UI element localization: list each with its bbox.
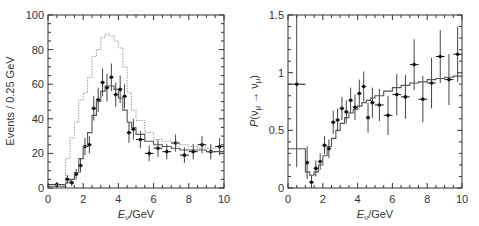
x-tick-label: 8 <box>424 193 430 205</box>
x-tick-label: 0 <box>45 193 51 205</box>
data-point <box>215 138 224 155</box>
x-tick-label: 6 <box>151 193 157 205</box>
y-tick-label: 20 <box>32 147 44 159</box>
y-tick-label: 1.5 <box>269 9 284 21</box>
probability-plot-content <box>288 15 462 188</box>
events-y-axis-label: Events / 0.25 GeV <box>4 56 16 146</box>
probability-x-axis-label: Eν/GeV <box>357 208 394 222</box>
x-tick-label: 4 <box>115 193 121 205</box>
y-tick-label: 0 <box>278 182 284 194</box>
data-point <box>348 88 352 113</box>
data-point <box>375 89 384 121</box>
data-point <box>410 39 419 90</box>
data-point <box>127 122 131 143</box>
best-fit-histogram <box>48 86 224 186</box>
survival-probability-panel: 024681000.511.5 P(νμ → νμ) Eν/GeV <box>248 9 468 222</box>
y-tick-label: 0 <box>38 182 44 194</box>
data-point <box>198 136 207 153</box>
x-tick-label: 10 <box>456 193 468 205</box>
events-axis-ticks <box>48 15 224 188</box>
data-point <box>366 103 370 133</box>
data-point <box>436 30 445 83</box>
y-tick-label: 60 <box>32 78 44 90</box>
data-point <box>322 136 326 154</box>
x-tick-label: 10 <box>218 193 230 205</box>
events-histogram-panel: 0246810020406080100 Events / 0.25 GeV Eν… <box>4 9 230 222</box>
x-tick-label: 8 <box>186 193 192 205</box>
y-tick-label: 0.5 <box>269 124 284 136</box>
data-point <box>392 74 401 116</box>
events-plot-frame <box>48 15 224 188</box>
data-point <box>401 75 410 119</box>
data-point <box>419 76 428 122</box>
events-tick-labels: 0246810020406080100 <box>26 9 230 205</box>
data-point <box>331 111 335 134</box>
data-point <box>370 88 374 118</box>
data-point <box>453 27 462 82</box>
data-point <box>445 54 454 105</box>
data-point <box>136 131 145 148</box>
events-plot-content <box>48 34 224 187</box>
figure: 0246810020406080100 Events / 0.25 GeV Eν… <box>0 0 479 226</box>
probability-y-axis-label: P(νμ → νμ) <box>248 75 262 127</box>
x-tick-label: 2 <box>320 193 326 205</box>
data-point <box>335 108 339 131</box>
x-tick-label: 0 <box>285 193 291 205</box>
data-point <box>353 95 357 120</box>
data-point <box>357 80 361 108</box>
figure-canvas: 0246810020406080100 Events / 0.25 GeV Eν… <box>0 0 479 226</box>
y-tick-label: 100 <box>26 9 44 21</box>
y-tick-label: 1 <box>278 67 284 79</box>
y-tick-label: 80 <box>32 44 44 56</box>
data-point <box>427 58 436 109</box>
data-point <box>362 72 366 102</box>
data-point <box>154 140 163 157</box>
data-point <box>145 146 154 162</box>
x-tick-label: 4 <box>355 193 361 205</box>
probability-plot-frame <box>288 15 462 188</box>
no-oscillation-histogram <box>48 34 224 185</box>
data-point <box>309 175 313 188</box>
data-point <box>340 97 344 120</box>
x-tick-label: 6 <box>389 193 395 205</box>
events-x-axis-label: Eν/GeV <box>118 208 155 222</box>
best-fit-histogram <box>288 76 462 175</box>
data-point <box>109 63 113 91</box>
probability-axis-ticks <box>288 15 462 188</box>
x-tick-label: 2 <box>80 193 86 205</box>
y-tick-label: 40 <box>32 113 44 125</box>
data-point <box>384 96 393 135</box>
